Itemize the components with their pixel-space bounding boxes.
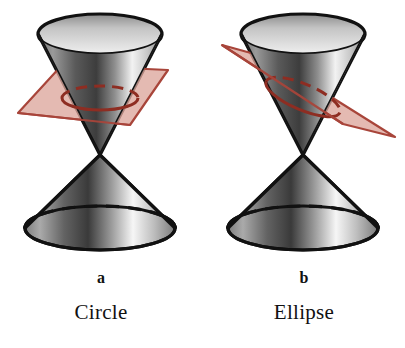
cone-diagram-ellipse [203, 0, 405, 268]
panel-letter-b: b [203, 269, 405, 287]
panel-label-circle: Circle [0, 300, 202, 324]
cone-diagram-circle [0, 0, 202, 268]
panel-ellipse: b Ellipse [203, 0, 405, 348]
conic-sections-figure: a Circle [0, 0, 405, 348]
panel-letter-a: a [0, 269, 202, 287]
panel-label-ellipse: Ellipse [203, 300, 405, 324]
panel-circle: a Circle [0, 0, 202, 348]
